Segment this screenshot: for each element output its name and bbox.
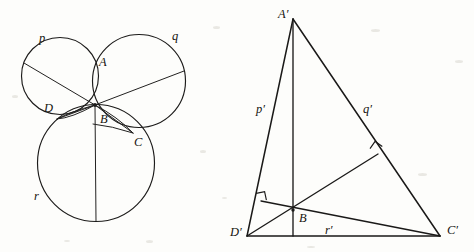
scan-speck bbox=[146, 240, 153, 243]
right-angle-p-prime-icon bbox=[256, 192, 266, 201]
label-side-q-prime: q′ bbox=[363, 103, 372, 116]
scan-speck bbox=[371, 29, 380, 32]
label-circle-r: r bbox=[34, 190, 39, 203]
label-point-C: C bbox=[134, 136, 142, 149]
scan-speck bbox=[418, 173, 427, 176]
geometry-figure: p q r A B C D A′ D′ C′ B p′ q′ r′ bbox=[0, 0, 474, 252]
label-point-C-prime: C′ bbox=[447, 224, 458, 237]
label-side-r-prime: r′ bbox=[325, 224, 333, 237]
scan-speck bbox=[222, 197, 227, 199]
label-point-B-interior: B bbox=[299, 212, 307, 225]
cevian-C-prime-to-p-foot bbox=[261, 201, 440, 236]
scan-speck bbox=[12, 95, 18, 98]
chord-p-diameter bbox=[24, 63, 95, 105]
scan-speck bbox=[307, 246, 315, 248]
chord-r-diameter bbox=[95, 105, 96, 221]
scan-speck bbox=[200, 150, 206, 153]
scan-speck bbox=[213, 26, 220, 29]
scan-speck bbox=[455, 60, 463, 63]
label-point-D-prime: D′ bbox=[230, 226, 242, 239]
label-point-A-prime: A′ bbox=[278, 8, 288, 21]
right-panel-triangle bbox=[247, 19, 440, 236]
label-point-D: D bbox=[44, 102, 53, 115]
label-side-p-prime: p′ bbox=[256, 103, 265, 116]
figure-canvas bbox=[0, 0, 474, 252]
circle-p bbox=[22, 38, 99, 115]
side-p-prime bbox=[247, 19, 293, 236]
label-point-A: A bbox=[99, 56, 107, 69]
common-point-dot bbox=[93, 103, 97, 107]
label-circle-p: p bbox=[39, 32, 45, 45]
scan-speck bbox=[64, 240, 70, 242]
cevian-D-prime-to-q-foot bbox=[247, 154, 378, 236]
point-B-dot bbox=[291, 208, 294, 211]
side-q-prime bbox=[293, 19, 440, 236]
label-point-B: B bbox=[100, 113, 108, 126]
label-circle-q: q bbox=[172, 30, 178, 43]
chord-q-diameter bbox=[95, 71, 184, 105]
